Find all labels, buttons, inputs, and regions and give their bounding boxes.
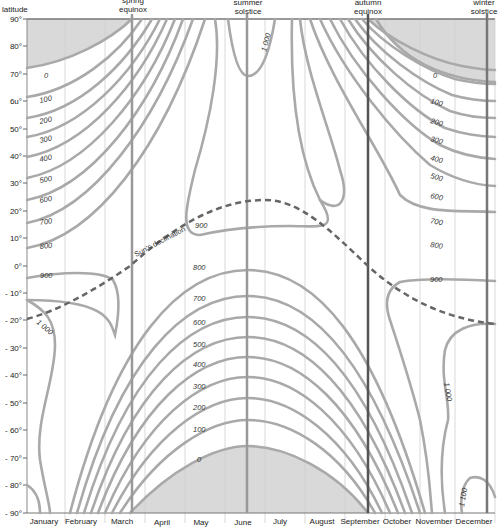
svg-text:800: 800 — [430, 240, 444, 251]
isoline-south-west-corner — [27, 485, 40, 513]
svg-text:200: 200 — [38, 114, 54, 126]
polar-night-north-west — [27, 19, 132, 68]
svg-text:500: 500 — [39, 174, 54, 185]
insolation-chart: latitude 90° 80° 70° 6u° 50° 40° 30° 20°… — [0, 0, 501, 532]
svg-text:20°: 20° — [10, 207, 22, 216]
month-labels: January February March April May June Ju… — [30, 517, 493, 527]
svg-text:- 60°: - 60° — [5, 426, 22, 435]
svg-text:October: October — [383, 517, 412, 526]
svg-text:30°: 30° — [10, 179, 22, 188]
svg-text:- 10°: - 10° — [5, 289, 22, 298]
svg-text:- 20°: - 20° — [5, 316, 22, 325]
contour-labels-center: 900 800 700 600 500 400 300 200 100 0 — [192, 221, 208, 464]
contour-labels-west: 0 100 200 300 400 500 600 700 800 900 — [38, 71, 54, 280]
svg-text:70°: 70° — [10, 70, 22, 79]
y-ticks — [23, 19, 27, 513]
marker-labels: spring equinox summer solstice autumn eq… — [119, 0, 498, 16]
svg-text:December: December — [456, 517, 493, 526]
svg-text:100: 100 — [193, 425, 206, 434]
svg-text:June: June — [234, 518, 252, 527]
svg-text:300: 300 — [39, 133, 54, 145]
svg-text:500: 500 — [193, 340, 206, 349]
label-1100: 1 100 — [457, 486, 469, 507]
svg-text:solstice: solstice — [235, 7, 262, 16]
svg-text:900: 900 — [40, 271, 53, 280]
svg-text:March: March — [111, 517, 133, 526]
svg-text:January: January — [30, 517, 58, 526]
svg-text:- 80°: - 80° — [5, 481, 22, 490]
svg-text:800: 800 — [193, 263, 206, 272]
label-1000-southwest: 1 000 — [35, 318, 56, 337]
svg-text:80°: 80° — [10, 42, 22, 51]
svg-text:equinox: equinox — [119, 5, 147, 14]
svg-text:July: July — [273, 517, 287, 526]
svg-text:100: 100 — [39, 93, 54, 105]
svg-text:600: 600 — [193, 318, 206, 327]
svg-text:200: 200 — [192, 403, 206, 412]
svg-text:- 90°: - 90° — [5, 509, 22, 518]
svg-text:September: September — [340, 517, 379, 526]
svg-text:700: 700 — [430, 216, 445, 227]
svg-text:winter: winter — [472, 0, 495, 7]
y-axis-label: latitude — [2, 5, 28, 14]
svg-text:- 40°: - 40° — [5, 371, 22, 380]
svg-text:autumn: autumn — [355, 0, 382, 7]
svg-text:40°: 40° — [10, 152, 22, 161]
svg-text:50°: 50° — [10, 125, 22, 134]
svg-text:400: 400 — [39, 152, 54, 164]
svg-text:400: 400 — [193, 360, 206, 369]
svg-text:10°: 10° — [10, 234, 22, 243]
svg-text:800: 800 — [39, 241, 53, 251]
svg-text:90°: 90° — [10, 15, 22, 24]
isolines-north-west — [27, 19, 328, 335]
svg-text:May: May — [193, 518, 208, 527]
svg-text:300: 300 — [193, 382, 206, 391]
svg-text:900: 900 — [195, 221, 208, 230]
svg-text:August: August — [310, 517, 336, 526]
svg-text:February: February — [65, 517, 97, 526]
svg-text:solstice: solstice — [471, 7, 498, 16]
svg-text:600: 600 — [39, 194, 54, 205]
svg-text:summer: summer — [234, 0, 263, 7]
svg-text:equinox: equinox — [354, 7, 382, 16]
isolines-east-mid — [387, 279, 495, 513]
svg-text:0: 0 — [44, 71, 49, 80]
svg-text:- 30°: - 30° — [5, 344, 22, 353]
svg-text:400: 400 — [429, 153, 444, 165]
y-tick-labels: 90° 80° 70° 6u° 50° 40° 30° 20° 10° 0° -… — [5, 15, 22, 518]
polar-night-north-east — [368, 19, 495, 82]
contour-labels-east: 0 100 200 300 400 500 600 700 800 900 — [429, 71, 445, 284]
svg-text:0°: 0° — [14, 262, 22, 271]
svg-text:700: 700 — [193, 294, 206, 303]
svg-text:300: 300 — [429, 134, 444, 146]
svg-text:- 70°: - 70° — [5, 454, 22, 463]
svg-text:6u°: 6u° — [10, 97, 22, 106]
svg-text:November: November — [416, 517, 453, 526]
svg-text:900: 900 — [430, 275, 443, 284]
svg-text:600: 600 — [430, 191, 445, 203]
sun-declination-curve — [27, 200, 495, 324]
label-1000-southeast: 1 000 — [442, 382, 454, 403]
svg-text:April: April — [154, 518, 170, 527]
sun-declination-label: Sun's declination — [133, 224, 187, 258]
svg-text:- 50°: - 50° — [5, 399, 22, 408]
svg-text:700: 700 — [39, 216, 53, 227]
